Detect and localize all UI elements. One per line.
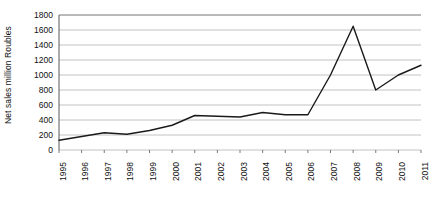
y-tick-label: 1600 [34, 26, 53, 35]
y-axis-title: Net sales million Roubles [0, 0, 16, 150]
x-tick-label: 2011 [401, 155, 433, 173]
y-tick-label: 400 [39, 116, 53, 125]
y-tick-label: 200 [39, 131, 53, 140]
y-tick-label: 0 [48, 146, 53, 155]
y-tick-label: 1400 [34, 41, 53, 50]
y-tick-label: 1200 [34, 56, 53, 65]
data-series-line [59, 15, 421, 150]
y-axis-tick-labels: 180016001400120010008006004002000 [16, 0, 56, 160]
y-tick-label: 800 [39, 86, 53, 95]
plot-area [59, 15, 421, 150]
x-axis-tick-labels: 1995199619971998199920002001200220032004… [59, 151, 421, 198]
y-tick-label: 1800 [34, 11, 53, 20]
y-tick-label: 600 [39, 101, 53, 110]
y-axis-title-label: Net sales million Roubles [3, 26, 13, 124]
y-tick-label: 1000 [34, 71, 53, 80]
